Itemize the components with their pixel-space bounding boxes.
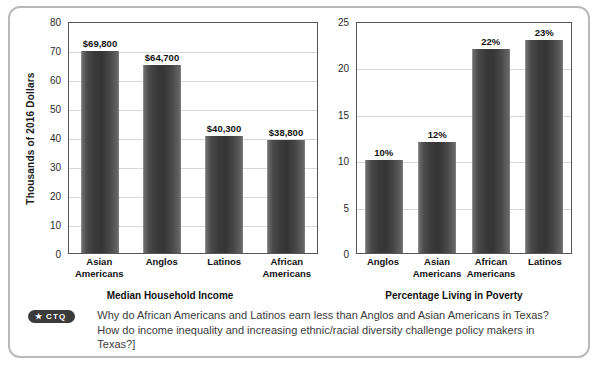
x-category-line: Americans xyxy=(68,268,131,280)
bar xyxy=(418,142,456,253)
x-category-line: Asian xyxy=(410,256,464,268)
bar xyxy=(143,65,181,253)
figure-container: Thousands of 2016 Dollars 80706050403020… xyxy=(8,6,590,358)
plot-area-left: $69,800$64,700$40,300$38,800 xyxy=(68,22,318,254)
x-category-label: Latinos xyxy=(193,256,256,279)
x-category-line: Latinos xyxy=(518,256,572,268)
bar-series-right: 10%12%22%23% xyxy=(357,23,571,253)
bar xyxy=(205,136,243,253)
star-icon: ★ xyxy=(35,313,43,321)
x-category-line: Americans xyxy=(464,268,518,280)
bar-item: $40,300 xyxy=(193,23,255,253)
y-tick-label: 5 xyxy=(343,202,349,213)
x-category-line: Latinos xyxy=(193,256,256,268)
x-axis-categories-right: AnglosAsianAmericansAfricanAmericansLati… xyxy=(356,256,572,279)
y-tick-label: 10 xyxy=(50,220,61,231)
y-tick-label: 30 xyxy=(50,162,61,173)
bar xyxy=(81,51,119,253)
bar-value-label: 10% xyxy=(374,147,393,158)
ctq-block: ★ CTQ Why do African Americans and Latin… xyxy=(28,308,574,352)
y-axis-ticks-left: 80706050403020100 xyxy=(38,22,64,254)
plot-area-right: 10%12%22%23% xyxy=(356,22,572,254)
bar xyxy=(267,140,305,253)
y-tick-label: 20 xyxy=(338,63,349,74)
x-category-label: AfricanAmericans xyxy=(256,256,319,279)
x-category-line: African xyxy=(256,256,319,268)
bar-item: $64,700 xyxy=(131,23,193,253)
y-tick-label: 20 xyxy=(50,191,61,202)
x-category-line: Americans xyxy=(256,268,319,280)
x-category-line: African xyxy=(464,256,518,268)
y-tick-label: 0 xyxy=(55,249,61,260)
y-tick-label: 0 xyxy=(343,249,349,260)
bar-value-label: $69,800 xyxy=(83,38,117,49)
bar-item: $38,800 xyxy=(255,23,317,253)
x-category-label: AsianAmericans xyxy=(68,256,131,279)
y-tick-label: 15 xyxy=(338,109,349,120)
bar-item: $69,800 xyxy=(69,23,131,253)
x-category-label: Anglos xyxy=(131,256,194,279)
bar-item: 10% xyxy=(357,23,411,253)
ctq-question-text: Why do African Americans and Latinos ear… xyxy=(97,308,549,352)
bar-item: 22% xyxy=(464,23,518,253)
bar-item: 12% xyxy=(411,23,465,253)
bar xyxy=(472,49,510,253)
x-category-label: AfricanAmericans xyxy=(464,256,518,279)
bar-value-label: $40,300 xyxy=(207,123,241,134)
x-category-label: Anglos xyxy=(356,256,410,279)
y-tick-label: 60 xyxy=(50,75,61,86)
y-axis-ticks-right: 2520151050 xyxy=(326,22,352,254)
bar-value-label: $64,700 xyxy=(145,52,179,63)
bar-value-label: 22% xyxy=(481,36,500,47)
x-axis-title-right: Percentage Living in Poverty xyxy=(326,290,582,301)
bar-value-label: 23% xyxy=(535,27,554,38)
x-category-label: Latinos xyxy=(518,256,572,279)
bar xyxy=(525,40,563,253)
bar-value-label: $38,800 xyxy=(269,127,303,138)
y-tick-label: 50 xyxy=(50,104,61,115)
x-axis-categories-left: AsianAmericansAnglosLatinosAfricanAmeric… xyxy=(68,256,318,279)
y-tick-label: 25 xyxy=(338,17,349,28)
y-tick-label: 40 xyxy=(50,133,61,144)
bar-series-left: $69,800$64,700$40,300$38,800 xyxy=(69,23,317,253)
x-category-line: Asian xyxy=(68,256,131,268)
x-category-line: Anglos xyxy=(356,256,410,268)
y-tick-label: 10 xyxy=(338,156,349,167)
y-tick-label: 80 xyxy=(50,17,61,28)
bar-item: 23% xyxy=(518,23,572,253)
chart-panel-percentage-living-in-poverty: 2520151050 10%12%22%23% AnglosAsianAmeri… xyxy=(326,22,582,290)
bar xyxy=(365,160,403,253)
chart-panel-median-household-income: Thousands of 2016 Dollars 80706050403020… xyxy=(22,22,318,290)
x-category-line: Anglos xyxy=(131,256,194,268)
y-axis-title-left: Thousands of 2016 Dollars xyxy=(22,22,38,254)
y-axis-title-left-text: Thousands of 2016 Dollars xyxy=(25,72,36,204)
ctq-badge-label: CTQ xyxy=(46,312,66,321)
y-tick-label: 70 xyxy=(50,46,61,57)
x-category-label: AsianAmericans xyxy=(410,256,464,279)
ctq-badge: ★ CTQ xyxy=(28,310,75,323)
x-axis-title-left: Median Household Income xyxy=(22,290,318,301)
x-category-line: Americans xyxy=(410,268,464,280)
bar-value-label: 12% xyxy=(428,129,447,140)
